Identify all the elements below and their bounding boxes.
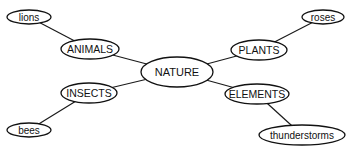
nodes-layer: NATURE ANIMALS PLANTS INSECTS ELEMENTS l… [7,10,345,145]
node-bees[interactable]: bees [7,123,51,137]
node-elements[interactable]: ELEMENTS [225,84,289,104]
node-plants-label: PLANTS [239,44,280,56]
node-lions[interactable]: lions [7,10,51,24]
node-elements-label: ELEMENTS [229,88,286,100]
node-thunderstorms-label: thunderstorms [270,130,334,141]
node-roses-label: roses [311,12,335,23]
node-plants[interactable]: PLANTS [231,40,287,60]
node-thunderstorms[interactable]: thunderstorms [259,125,345,145]
node-animals-label: ANIMALS [67,43,113,55]
mind-map-diagram: NATURE ANIMALS PLANTS INSECTS ELEMENTS l… [0,0,350,154]
node-nature[interactable]: NATURE [141,57,213,87]
node-animals[interactable]: ANIMALS [61,39,119,59]
node-insects[interactable]: INSECTS [61,83,117,103]
node-roses[interactable]: roses [302,10,344,24]
node-bees-label: bees [18,125,40,136]
node-nature-label: NATURE [155,66,199,78]
node-lions-label: lions [19,12,40,23]
node-insects-label: INSECTS [66,87,112,99]
